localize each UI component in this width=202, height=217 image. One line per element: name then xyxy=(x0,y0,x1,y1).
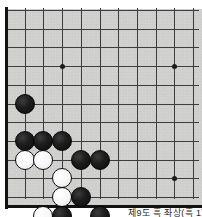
black-stone-b7 xyxy=(15,131,35,151)
white-stone-c8 xyxy=(33,150,53,170)
go-diagram-figure: 제9도 흑 좌상(흑 1) xyxy=(0,0,202,217)
black-stone-d7 xyxy=(52,131,72,151)
grid-line-horizontal xyxy=(6,178,199,179)
black-stone-e10 xyxy=(71,187,91,207)
grid-line-horizontal xyxy=(6,29,199,30)
figure-caption: 제9도 흑 좌상(흑 1) xyxy=(128,208,202,217)
board-edge-left xyxy=(5,8,8,209)
grid-line-horizontal xyxy=(6,85,199,86)
grid-line-horizontal xyxy=(6,66,199,67)
grid-line-horizontal xyxy=(6,10,199,11)
black-stone-b5 xyxy=(15,94,35,114)
black-stone-f8 xyxy=(90,150,110,170)
white-stone-b8 xyxy=(15,150,35,170)
black-stone-e8 xyxy=(71,150,91,170)
grid-line-horizontal xyxy=(6,122,199,123)
grid-line-horizontal xyxy=(6,47,199,48)
grid-line-horizontal xyxy=(6,104,199,105)
grid-line-horizontal xyxy=(6,197,199,198)
white-stone-d10 xyxy=(52,187,72,207)
